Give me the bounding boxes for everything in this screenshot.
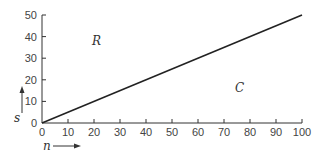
y-axis-label: s [14,86,25,125]
svg-text:n: n [43,139,51,153]
y-tick-label: 0 [31,117,37,129]
chart: 01020304050 0102030405060708090100 R C s… [0,0,326,157]
x-tick-label: 60 [192,126,204,138]
y-axis: 01020304050 [25,9,46,129]
region-label-c: C [235,81,244,95]
arrow-right-head-icon [74,144,81,149]
y-tick-label: 50 [25,9,37,21]
x-tick-label: 40 [140,126,152,138]
data-line [42,15,302,123]
x-tick-label: 20 [88,126,100,138]
arrow-up-head-icon [20,86,25,93]
x-tick-label: 80 [244,126,256,138]
x-tick-label: 70 [218,126,230,138]
x-tick-label: 30 [114,126,126,138]
y-tick-label: 30 [25,52,37,64]
x-tick-label: 10 [62,126,74,138]
svg-text:s: s [14,111,20,125]
x-tick-label: 0 [39,126,45,138]
y-tick-label: 20 [25,74,37,86]
x-tick-label: 50 [166,126,178,138]
y-tick-label: 10 [25,95,37,107]
x-tick-label: 100 [293,126,311,138]
x-axis-label: n [43,139,81,153]
y-tick-label: 40 [25,31,37,43]
x-axis: 0102030405060708090100 [39,119,311,138]
region-label-r: R [91,34,101,48]
x-tick-label: 90 [270,126,282,138]
